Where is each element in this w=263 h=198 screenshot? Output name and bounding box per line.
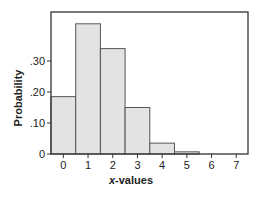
x-tick-label: 4 <box>159 159 165 171</box>
x-axis: 01234567 <box>60 154 239 171</box>
y-tick-label: .10 <box>30 117 45 129</box>
x-tick-label: 5 <box>184 159 190 171</box>
y-axis-title: Probability <box>12 69 24 127</box>
x-tick-label: 3 <box>134 159 140 171</box>
y-tick-label: .20 <box>30 86 45 98</box>
x-tick-label: 7 <box>233 159 239 171</box>
bar-4 <box>150 143 175 154</box>
x-tick-label: 6 <box>208 159 214 171</box>
y-tick-label: 0 <box>39 148 45 160</box>
y-axis: 0.10.20.30 <box>30 55 51 160</box>
x-tick-label: 0 <box>60 159 66 171</box>
bar-0 <box>51 97 76 154</box>
x-tick-label: 2 <box>110 159 116 171</box>
probability-histogram: 0.10.20.30 01234567 Probability x-values <box>0 0 263 198</box>
bar-1 <box>76 24 101 154</box>
bars <box>51 24 199 154</box>
y-tick-label: .30 <box>30 55 45 67</box>
x-tick-label: 1 <box>85 159 91 171</box>
bar-2 <box>100 49 125 154</box>
x-axis-title: x-values <box>108 174 153 186</box>
bar-3 <box>125 108 150 155</box>
